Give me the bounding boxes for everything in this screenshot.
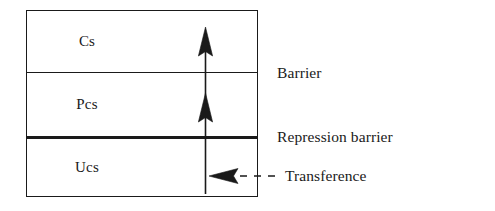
barrier-label: Barrier xyxy=(277,65,322,81)
psyche-diagram: Cs Pcs Ucs Barrier Repression barrier Tr… xyxy=(0,0,495,211)
barrier-divider-line xyxy=(26,72,258,73)
preconscious-layer-label: Pcs xyxy=(76,96,97,113)
psyche-box: Cs Pcs Ucs xyxy=(26,10,258,197)
preconscious-layer: Pcs xyxy=(27,73,257,138)
conscious-layer-label: Cs xyxy=(79,33,95,50)
unconscious-layer-label: Ucs xyxy=(75,159,99,176)
conscious-layer: Cs xyxy=(27,11,257,73)
transference-label: Transference xyxy=(285,168,367,184)
repression-barrier-divider-line xyxy=(26,136,258,139)
unconscious-layer: Ucs xyxy=(27,138,257,198)
repression-barrier-label: Repression barrier xyxy=(277,129,393,145)
